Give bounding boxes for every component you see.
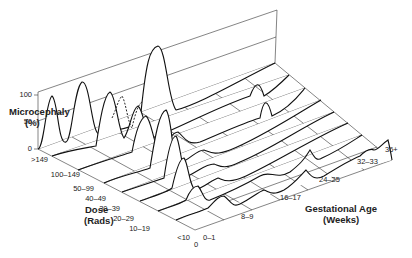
gest-tick-32-33: 32–33 bbox=[357, 157, 378, 166]
gest-tick-8-9: 8–9 bbox=[241, 212, 254, 221]
dose-tick-50-99: 50–99 bbox=[73, 184, 94, 193]
z-axis-title-line2: (%) bbox=[25, 117, 40, 128]
dose-tick-40-49: 40–49 bbox=[85, 194, 106, 203]
z-axis: 100 50 0 Microcephaly (%) bbox=[9, 90, 70, 153]
dose-axis-title-line1: Dose bbox=[85, 204, 108, 215]
dose-tick-gt149: >149 bbox=[31, 155, 48, 164]
z-tick-0: 0 bbox=[28, 144, 32, 153]
gest-axis-title-line2: (Weeks) bbox=[323, 214, 359, 225]
z-tick-100: 100 bbox=[19, 90, 32, 99]
z-axis-title-line1: Microcephaly bbox=[9, 106, 70, 117]
dose-tick-10-19: 10–19 bbox=[129, 224, 150, 233]
dose-axis-title-line2: (Rads) bbox=[84, 215, 114, 226]
microcephaly-3d-chart: 100 50 0 Microcephaly (%) >149 100–149 5… bbox=[0, 0, 412, 258]
gest-axis-title-line1: Gestational Age bbox=[305, 203, 377, 214]
dose-tick-20-29: 20–29 bbox=[113, 214, 134, 223]
gest-tick-0-1: 0–1 bbox=[203, 233, 216, 242]
origin-label: 0 bbox=[194, 240, 198, 249]
dose-tick-100-149: 100–149 bbox=[51, 170, 80, 179]
gest-tick-36plus: 36+ bbox=[385, 145, 398, 154]
dose-tick-lt10: <10 bbox=[177, 233, 190, 242]
gest-tick-16-17: 16–17 bbox=[280, 193, 301, 202]
gest-tick-24-25: 24–25 bbox=[319, 175, 340, 184]
